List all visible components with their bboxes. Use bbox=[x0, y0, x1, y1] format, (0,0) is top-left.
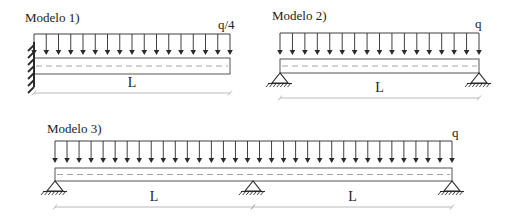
arrow-head bbox=[52, 158, 58, 163]
arrow-down-icon bbox=[43, 34, 49, 55]
arrow-down-icon bbox=[389, 33, 395, 55]
ground-hatch bbox=[438, 192, 441, 196]
load-label: q/4 bbox=[218, 17, 235, 32]
support-triangle bbox=[471, 73, 487, 83]
ground-hatch bbox=[41, 192, 44, 196]
arrow-down-icon bbox=[402, 33, 408, 55]
arrow-down-icon bbox=[100, 141, 106, 163]
arrow-down-icon bbox=[76, 141, 82, 163]
arrow-head bbox=[364, 50, 370, 55]
arrow-head bbox=[124, 158, 130, 163]
load-label: q bbox=[475, 16, 482, 31]
arrow-head bbox=[92, 50, 98, 55]
arrow-down-icon bbox=[476, 33, 482, 55]
arrow-down-icon bbox=[136, 141, 142, 163]
arrow-head bbox=[56, 50, 62, 55]
arrow-head bbox=[476, 50, 482, 55]
arrow-head bbox=[269, 158, 275, 163]
arrow-down-icon bbox=[437, 141, 443, 163]
arrow-down-icon bbox=[449, 141, 455, 163]
arrow-down-icon bbox=[389, 141, 395, 163]
model-title: Modelo 2) bbox=[272, 8, 327, 23]
arrow-head bbox=[353, 158, 359, 163]
arrow-down-icon bbox=[185, 141, 191, 163]
model-title: Modelo 1) bbox=[25, 10, 80, 25]
arrow-down-icon bbox=[209, 141, 215, 163]
arrow-head bbox=[76, 158, 82, 163]
arrow-head bbox=[185, 158, 191, 163]
load-arrows bbox=[52, 141, 455, 163]
arrow-head bbox=[148, 158, 154, 163]
arrow-head bbox=[389, 50, 395, 55]
arrow-down-icon bbox=[88, 141, 94, 163]
arrow-head bbox=[365, 158, 371, 163]
arrow-head bbox=[215, 50, 221, 55]
arrow-head bbox=[100, 158, 106, 163]
span-length-label: L bbox=[128, 75, 137, 90]
arrow-head bbox=[178, 50, 184, 55]
load-arrows bbox=[31, 34, 233, 55]
pin-support-icon bbox=[465, 73, 491, 87]
arrow-down-icon bbox=[439, 33, 445, 55]
arrow-head bbox=[160, 158, 166, 163]
arrow-head bbox=[315, 50, 321, 55]
arrow-head bbox=[190, 50, 196, 55]
arrow-down-icon bbox=[451, 33, 457, 55]
arrow-head bbox=[339, 50, 345, 55]
arrow-head bbox=[136, 158, 142, 163]
pin-support-icon bbox=[41, 181, 67, 195]
arrow-down-icon bbox=[413, 141, 419, 163]
arrow-head bbox=[402, 50, 408, 55]
arrow-down-icon bbox=[124, 141, 130, 163]
arrow-head bbox=[377, 158, 383, 163]
arrow-down-icon bbox=[245, 141, 251, 163]
span-length-label: L bbox=[150, 189, 159, 204]
ground-hatch bbox=[465, 84, 468, 88]
arrow-head bbox=[88, 158, 94, 163]
arrow-down-icon bbox=[160, 141, 166, 163]
load-label: q bbox=[452, 125, 459, 140]
arrow-down-icon bbox=[52, 141, 58, 163]
arrow-head bbox=[449, 158, 455, 163]
arrow-down-icon bbox=[80, 34, 86, 55]
arrow-down-icon bbox=[173, 141, 179, 163]
arrow-down-icon bbox=[377, 141, 383, 163]
arrow-head bbox=[293, 158, 299, 163]
arrow-down-icon bbox=[317, 141, 323, 163]
arrow-head bbox=[129, 50, 135, 55]
arrow-down-icon bbox=[129, 34, 135, 55]
arrow-down-icon bbox=[302, 33, 308, 55]
arrow-head bbox=[141, 50, 147, 55]
arrow-head bbox=[197, 158, 203, 163]
ground-hatch bbox=[239, 192, 242, 196]
arrow-down-icon bbox=[425, 141, 431, 163]
arrow-down-icon bbox=[141, 34, 147, 55]
arrow-down-icon bbox=[414, 33, 420, 55]
arrow-down-icon bbox=[290, 33, 296, 55]
support-triangle bbox=[272, 73, 288, 83]
ground-hatch bbox=[266, 84, 269, 88]
arrow-head bbox=[277, 50, 283, 55]
arrow-down-icon bbox=[215, 34, 221, 55]
arrow-head bbox=[317, 158, 323, 163]
load-arrows bbox=[277, 33, 482, 55]
arrow-down-icon bbox=[364, 33, 370, 55]
arrow-head bbox=[173, 158, 179, 163]
arrow-head bbox=[451, 50, 457, 55]
pin-support-icon bbox=[266, 73, 292, 87]
arrow-down-icon bbox=[221, 141, 227, 163]
arrow-head bbox=[290, 50, 296, 55]
arrow-head bbox=[117, 50, 123, 55]
arrow-head bbox=[305, 158, 311, 163]
arrow-head bbox=[437, 158, 443, 163]
arrow-head bbox=[112, 158, 118, 163]
arrow-head bbox=[352, 50, 358, 55]
model-1-cantilever: Modelo 1)q/4L bbox=[25, 10, 235, 96]
arrow-head bbox=[166, 50, 172, 55]
arrow-down-icon bbox=[148, 141, 154, 163]
arrow-head bbox=[281, 158, 287, 163]
arrow-down-icon bbox=[426, 33, 432, 55]
arrow-down-icon bbox=[464, 33, 470, 55]
arrow-down-icon bbox=[233, 141, 239, 163]
arrow-head bbox=[401, 158, 407, 163]
